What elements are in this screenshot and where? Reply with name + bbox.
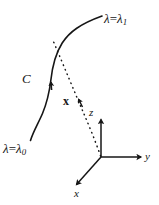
label-curve-c: C	[22, 72, 31, 85]
label-vector-x: x	[63, 95, 69, 107]
curve-c-path	[31, 16, 103, 141]
label-lambda-start-subscript: 0	[22, 147, 26, 157]
label-lambda-end: λ=λ1	[104, 12, 127, 27]
label-axis-y: y	[145, 151, 150, 162]
label-lambda-end-subscript: 1	[123, 17, 127, 27]
figure-canvas: λ=λ1 λ=λ0 C x z y x	[0, 0, 159, 205]
axis-x-line	[77, 157, 102, 185]
vector-x-dotted-path	[53, 41, 101, 157]
diagram-vector-graphics	[0, 0, 159, 205]
label-lambda-start-equals: =	[9, 141, 16, 156]
label-lambda-end-equals: =	[110, 11, 117, 26]
curve-direction-arrow	[51, 82, 52, 90]
label-axis-z: z	[89, 107, 93, 118]
label-axis-x: x	[74, 188, 79, 199]
label-lambda-start: λ=λ0	[3, 142, 26, 157]
